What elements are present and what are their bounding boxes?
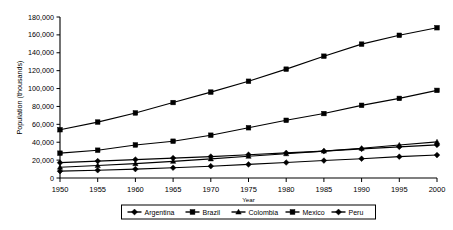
y-tick-label: 80,000 [32, 102, 54, 111]
x-tick-label: 1975 [240, 185, 257, 194]
x-tick-label: 1995 [391, 185, 408, 194]
data-point-marker [290, 210, 295, 215]
chart-figure: 020,00040,00060,00080,000100,000120,0001… [0, 0, 453, 230]
data-point-marker [283, 160, 289, 166]
x-tick-label: 1980 [278, 185, 295, 194]
data-point-marker [58, 151, 63, 156]
data-point-marker [171, 100, 176, 105]
y-tick-label: 100,000 [28, 84, 54, 93]
chart-legend: ArgentinaBrazilColombiaMexicoPeru [122, 205, 376, 219]
data-point-marker [284, 67, 289, 72]
y-tick-label: 160,000 [28, 30, 54, 39]
data-point-marker [397, 33, 402, 38]
legend-label-mexico: Mexico [303, 209, 325, 216]
data-point-marker [190, 210, 195, 215]
y-tick-label: 60,000 [32, 120, 54, 129]
data-point-marker [208, 163, 214, 169]
data-point-marker [246, 79, 251, 84]
x-tick-label: 1955 [89, 185, 106, 194]
data-point-marker [209, 90, 214, 95]
data-point-marker [322, 111, 327, 116]
data-point-marker [359, 42, 364, 47]
data-point-marker [359, 156, 365, 162]
data-point-marker [322, 54, 327, 59]
data-point-marker [95, 167, 101, 173]
data-point-marker [246, 125, 251, 130]
y-tick-label: 20,000 [32, 156, 54, 165]
series-line-mexico [60, 90, 437, 153]
data-point-marker [133, 111, 138, 116]
x-tick-label: 1990 [353, 185, 370, 194]
legend-label-peru: Peru [349, 209, 364, 216]
x-tick-label: 1965 [165, 185, 182, 194]
data-point-marker [95, 148, 100, 153]
data-point-marker [246, 162, 252, 168]
x-tick-label: 1985 [316, 185, 333, 194]
data-point-marker [396, 154, 402, 160]
population-line-chart: 020,00040,00060,00080,000100,000120,0001… [0, 0, 453, 230]
data-point-marker [171, 139, 176, 144]
x-tick-label: 1960 [127, 185, 144, 194]
legend-label-brazil: Brazil [203, 209, 221, 216]
series-brazil [58, 25, 440, 132]
data-point-marker [359, 103, 364, 108]
data-point-marker [58, 127, 63, 132]
y-tick-label: 0 [50, 174, 54, 183]
data-point-marker [209, 133, 214, 138]
series-mexico [58, 88, 440, 155]
x-tick-label: 1970 [202, 185, 219, 194]
data-point-marker [95, 120, 100, 125]
legend-label-argentina: Argentina [145, 209, 175, 217]
y-tick-label: 120,000 [28, 66, 54, 75]
legend-label-colombia: Colombia [249, 209, 279, 216]
data-point-marker [284, 118, 289, 123]
data-point-marker [435, 88, 440, 93]
x-tick-label: 2000 [429, 185, 446, 194]
y-tick-label: 40,000 [32, 138, 54, 147]
y-tick-label: 140,000 [28, 48, 54, 57]
y-tick-label: 180,000 [28, 13, 54, 22]
y-axis-title: Population (thousands) [15, 61, 24, 135]
data-point-marker [397, 96, 402, 101]
x-tick-label: 1950 [52, 185, 69, 194]
data-point-marker [434, 152, 440, 158]
data-point-marker [133, 166, 139, 172]
x-axis-title: Year [242, 196, 255, 203]
data-point-marker [133, 143, 138, 148]
data-point-marker [435, 25, 440, 30]
data-point-marker [170, 165, 176, 171]
data-point-marker [321, 158, 327, 164]
